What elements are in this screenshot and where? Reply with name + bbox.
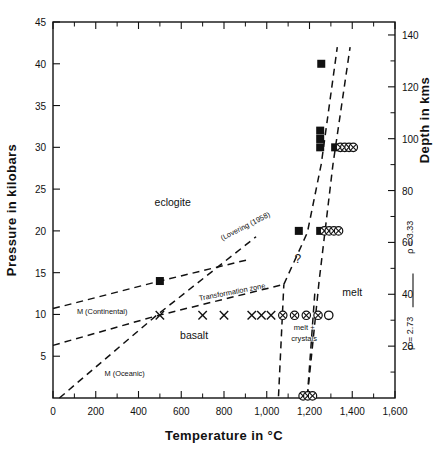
- circled-cross-marker: [314, 311, 322, 319]
- x-tick-label-1600: 1,600: [382, 406, 407, 417]
- region-label-question-mark: ?: [294, 252, 301, 266]
- x-tick-label-400: 400: [130, 406, 147, 417]
- y-right-tick-label-80: 80: [402, 186, 414, 197]
- phase-diagram-svg: 02004006008001,0001,2001,4001,600Tempera…: [0, 0, 439, 456]
- y-left-tick-label-15: 15: [35, 268, 47, 279]
- y-left-axis-title: Pressure in kilobars: [4, 144, 19, 276]
- circled-cross-marker: [302, 311, 310, 319]
- filled-square-marker: [316, 127, 324, 135]
- phase-diagram-figure: 02004006008001,0001,2001,4001,600Tempera…: [0, 0, 439, 456]
- cross-marker: [248, 311, 256, 319]
- melt-crystals-left-boundary: [279, 284, 284, 396]
- y-right-tick-label-140: 140: [402, 30, 419, 41]
- curve-label-m-oceanic: M (Oceanic): [104, 369, 144, 378]
- data-markers-group: [156, 60, 358, 400]
- filled-square-marker: [316, 135, 324, 143]
- density-upper-label: ρ = 3.33: [405, 221, 415, 254]
- x-tick-label-600: 600: [173, 406, 190, 417]
- y-left-tick-label-45: 45: [35, 17, 47, 28]
- x-tick-label-800: 800: [216, 406, 233, 417]
- x-tick-label-1400: 1,400: [340, 406, 365, 417]
- cross-marker: [257, 311, 265, 319]
- y-left-tick-label-10: 10: [35, 309, 47, 320]
- y-left-tick-label-20: 20: [35, 226, 47, 237]
- x-tick-label-1000: 1,000: [254, 406, 279, 417]
- y-left-tick-label-5: 5: [40, 351, 46, 362]
- circled-cross-marker: [290, 311, 298, 319]
- x-tick-label-200: 200: [87, 406, 104, 417]
- filled-square-marker: [295, 227, 303, 235]
- x-tick-label-1200: 1,200: [297, 406, 322, 417]
- curve-label-lovering: (Lovering (1958): [219, 210, 271, 243]
- circled-cross-marker: [279, 311, 287, 319]
- open-circle-marker: [325, 311, 333, 319]
- m-continental-line: [53, 259, 250, 308]
- cross-marker: [267, 311, 275, 319]
- y-right-tick-label-40: 40: [402, 289, 414, 300]
- density-lower-label: ρ = 2.73: [405, 317, 415, 350]
- filled-square-marker: [316, 143, 324, 151]
- curve-label-m-continental: M (Continental): [77, 307, 128, 316]
- melt-crystals-right-boundary: [307, 293, 314, 397]
- region-label-melt-crystals-1: melt +: [294, 323, 315, 332]
- circled-cross-marker: [334, 227, 342, 235]
- y-right-axis-title: Depth in kms: [417, 77, 432, 163]
- cross-marker: [198, 311, 206, 319]
- filled-square-marker: [156, 277, 164, 285]
- region-label-eclogite: eclogite: [155, 196, 191, 208]
- region-label-melt-crystals-2: crystals: [291, 334, 317, 343]
- circled-cross-marker: [308, 392, 316, 400]
- x-tick-label-0: 0: [50, 406, 56, 417]
- region-label-melt: melt: [342, 286, 362, 298]
- y-left-tick-label-35: 35: [35, 101, 47, 112]
- filled-square-marker: [317, 60, 325, 68]
- circled-cross-marker: [349, 143, 357, 151]
- eclogite-melt-boundary: [284, 47, 337, 284]
- y-left-tick-label-40: 40: [35, 59, 47, 70]
- y-left-tick-label-25: 25: [35, 184, 47, 195]
- cross-marker: [220, 311, 228, 319]
- region-label-basalt: basalt: [180, 329, 208, 341]
- melt-liquidus-boundary: [307, 47, 350, 396]
- y-left-tick-label-30: 30: [35, 142, 47, 153]
- x-axis-title: Temperature in °C: [165, 428, 283, 443]
- plot-frame: [53, 22, 395, 398]
